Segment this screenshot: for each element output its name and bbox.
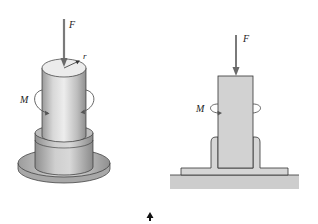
cursor-icon xyxy=(147,212,154,221)
right-figure: F M xyxy=(170,33,299,189)
shaft-cylinder xyxy=(42,59,86,142)
moment-label-left: M xyxy=(19,94,29,105)
force-arrow-left xyxy=(61,19,68,67)
force-label-right: F xyxy=(242,33,250,44)
diagram-canvas: F r M F xyxy=(0,0,318,224)
left-figure: F r M xyxy=(18,19,110,183)
shaft-section xyxy=(218,76,253,168)
ground xyxy=(170,175,299,189)
radius-label: r xyxy=(83,51,87,61)
force-label-left: F xyxy=(68,19,76,30)
force-arrow-right xyxy=(233,35,240,76)
moment-label-right: M xyxy=(195,103,205,114)
